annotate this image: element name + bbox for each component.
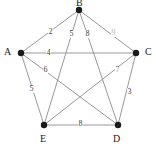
graph-edge	[44, 53, 136, 125]
vertex-layer	[18, 7, 139, 128]
graph-vertex-c	[133, 50, 139, 56]
edge-weight-label: 5	[69, 30, 74, 38]
vertex-label-e: E	[40, 134, 46, 144]
graph-vertex-a	[18, 50, 24, 56]
edge-weight-label: 2	[48, 28, 53, 36]
edge-weight-label: 8	[78, 120, 83, 128]
edge-weight-label: 5	[29, 85, 34, 93]
vertex-label-d: D	[113, 134, 120, 144]
edge-weight-label: 9	[111, 29, 116, 37]
vertex-label-a: A	[4, 47, 11, 57]
edge-weight-label: 8	[85, 30, 90, 38]
edge-weight-label: 7	[115, 66, 120, 74]
edge-weight-label: 4	[46, 49, 51, 57]
edge-weight-label: 3	[127, 88, 132, 96]
vertex-label-c: C	[145, 47, 152, 57]
graph-vertex-d	[115, 122, 121, 128]
edge-weight-label: 6	[43, 66, 48, 74]
vertex-label-b: B	[76, 0, 83, 8]
weighted-graph-figure: BACED 2589465738	[0, 0, 156, 149]
graph-edge	[21, 53, 118, 125]
graph-vertex-e	[41, 122, 47, 128]
